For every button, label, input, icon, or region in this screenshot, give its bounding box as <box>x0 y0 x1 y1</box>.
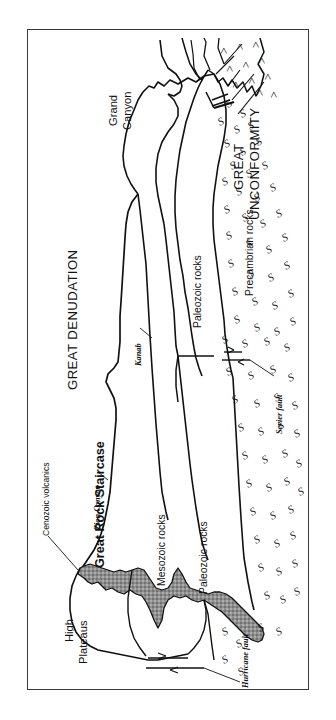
svg-text:S: S <box>215 114 226 127</box>
svg-text:S: S <box>231 122 242 135</box>
place-label-grand-canyon-line2: Canyon <box>122 91 134 130</box>
geologic-cross-section-figure: S S S S S S S S S S S S S S S S S <box>0 0 336 720</box>
unit-label-paleozoic-rocks-west: Paleozoic rocks <box>198 521 209 594</box>
svg-text:>: > <box>249 41 263 48</box>
svg-text:>: > <box>267 91 281 98</box>
mesozoic-layer <box>138 194 178 520</box>
grand-canyon-notch <box>156 40 182 224</box>
svg-text:>: > <box>223 65 237 72</box>
heading-great-unconformity-line1: GREAT <box>232 144 246 190</box>
place-label-high-plateaus-line2: Plateaus <box>78 620 90 664</box>
svg-text:S: S <box>291 426 302 439</box>
svg-text:S: S <box>293 456 304 469</box>
svg-text:>: > <box>217 47 231 54</box>
svg-text:S: S <box>291 584 302 597</box>
unit-label-paleozoic-rocks-east: Paleozoic rocks <box>192 255 203 328</box>
feature-label-zion-canyon: Zion Canyon <box>94 485 103 530</box>
svg-text:S: S <box>223 228 234 241</box>
figure-canvas: S S S S S S S S S S S S S S S S S <box>28 30 308 689</box>
svg-text:S: S <box>285 502 296 515</box>
svg-text:S: S <box>285 370 296 383</box>
svg-text:>: > <box>239 61 253 68</box>
svg-text:S: S <box>289 398 300 411</box>
cenozoic-volcanics-leader-line <box>48 536 78 570</box>
figure-frame: S S S S S S S S S S S S S S S S S <box>27 29 309 690</box>
svg-text:S: S <box>219 624 230 637</box>
svg-text:>: > <box>261 73 275 80</box>
unit-label-mesozoic-rocks: Mesozoic rocks <box>156 514 167 586</box>
svg-text:S: S <box>221 202 232 215</box>
unit-label-precambrian-rocks: Precambrian rocks <box>244 209 255 296</box>
zion-canyon-surface <box>78 194 138 574</box>
unit-label-cenozoic-volcanics: Cenozoic volcanics <box>42 462 51 536</box>
svg-text:>: > <box>253 89 267 96</box>
place-label-grand-canyon-line1: Grand <box>108 95 120 126</box>
feature-label-kanab: Kanab <box>135 343 144 366</box>
feature-label-sevier-fault: Sevier fault <box>276 395 285 434</box>
heading-great-unconformity-line2: UNCONFORMITY <box>248 108 262 221</box>
svg-text:>: > <box>233 43 247 50</box>
svg-text:S: S <box>295 484 306 497</box>
svg-text:S: S <box>289 556 300 569</box>
svg-text:S: S <box>287 528 298 541</box>
feature-label-hurricane-fault: Hurricane fault <box>242 634 251 688</box>
svg-text:S: S <box>219 652 230 665</box>
svg-text:S: S <box>285 286 296 299</box>
svg-text:S: S <box>219 174 230 187</box>
topographic-surface-line <box>123 74 214 194</box>
svg-text:>: > <box>229 81 243 88</box>
svg-text:S: S <box>287 314 298 327</box>
place-label-high-plateaus-line1: High <box>64 619 76 642</box>
svg-text:>: > <box>255 57 269 64</box>
svg-text:>: > <box>245 77 259 84</box>
heading-great-denudation: GREAT DENUDATION <box>66 250 80 390</box>
